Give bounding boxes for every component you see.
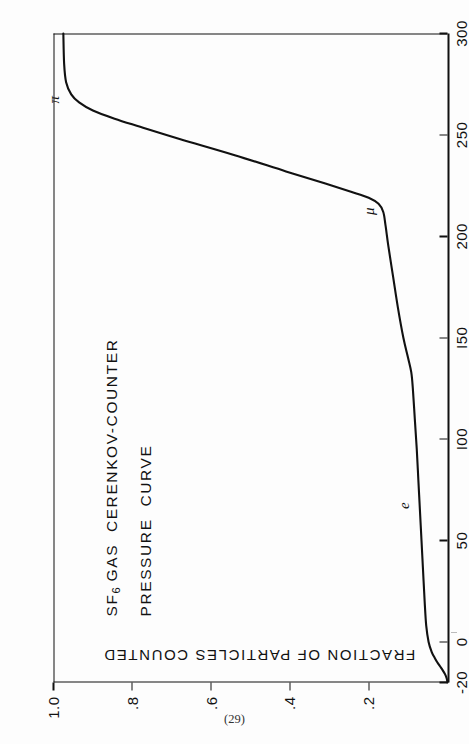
- x-axis-tick: [439, 32, 447, 33]
- chart-title: SF6 GAS CERENKOV-COUNTER PRESSURE CURVE: [96, 338, 160, 616]
- figure-page: -20050I00I50200250300 .2.4.6.81.0 PRESSU…: [0, 0, 469, 744]
- chart-title-line2: PRESSURE CURVE: [136, 444, 153, 616]
- x-axis-tick: [439, 438, 447, 439]
- curve-label-muon: μ: [360, 207, 377, 215]
- x-axis-tick: [439, 337, 447, 338]
- y-axis-title: FRACTION OF PARTICLES COUNTED: [62, 647, 456, 664]
- y-axis-tick: [131, 682, 132, 690]
- chart-title-line1-prefix: SF: [102, 593, 119, 616]
- x-axis-tick-label: 250: [452, 121, 469, 148]
- y-axis-tick-label: .2: [360, 696, 377, 710]
- curve-label-pion: π: [45, 95, 62, 103]
- x-axis-tick-label: I50: [452, 326, 469, 348]
- y-axis-tick: [210, 682, 211, 690]
- y-axis-tick: [368, 682, 369, 690]
- y-axis-tick-label: .4: [281, 696, 298, 710]
- y-axis-tick: [52, 682, 53, 690]
- x-axis-tick: [439, 134, 447, 135]
- curve-label-electron: e: [395, 502, 412, 509]
- x-axis-tick: [439, 681, 447, 682]
- y-axis-tick-label: .6: [202, 696, 219, 710]
- x-axis-tick: [439, 539, 447, 540]
- margin-print-artifact: [451, 632, 457, 633]
- y-axis-tick-label: .8: [123, 696, 140, 710]
- page-folio: (29): [0, 712, 469, 727]
- x-axis-tick: [439, 641, 447, 642]
- x-axis-tick-label: 50: [452, 531, 469, 549]
- x-axis-tick-label: 300: [452, 20, 469, 47]
- y-axis-tick: [289, 682, 290, 690]
- x-axis-tick-label: 200: [452, 223, 469, 250]
- rotated-figure: -20050I00I50200250300 .2.4.6.81.0 PRESSU…: [0, 0, 469, 744]
- x-axis-tick: [439, 235, 447, 236]
- x-axis-tick-label: 0: [452, 637, 469, 646]
- data-curve: [0, 0, 469, 744]
- chart-title-subscript: 6: [109, 587, 121, 593]
- x-axis-tick-label: -20: [452, 670, 469, 693]
- x-axis-tick-label: I00: [452, 427, 469, 449]
- chart-title-line1-rest: GAS CERENKOV-COUNTER: [102, 338, 119, 587]
